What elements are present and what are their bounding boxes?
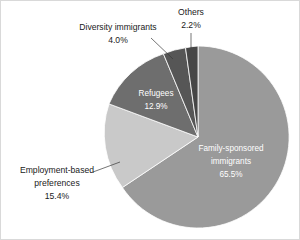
pie-label-family-sponsored-name-line1: Family-sponsored [198,144,264,153]
pie-label-family-sponsored-value: 65.5% [219,170,242,179]
pie-label-others-value: 2.2% [181,20,201,30]
pie-label-refugees-name: Refugees [138,89,173,98]
pie-label-family-sponsored-name-line2: immigrants [211,157,251,166]
pie-label-diversity-immigrants-name: Diversity immigrants [79,22,156,32]
pie-label-diversity-immigrants-value: 4.0% [108,35,128,45]
pie-label-employment-based-value: 15.4% [45,191,70,201]
pie-label-employment-based-name-line1: Employment-based [20,165,94,175]
pie-chart-svg: Others 2.2% Diversity immigrants 4.0% Re… [1,1,300,240]
pie-chart-figure: Others 2.2% Diversity immigrants 4.0% Re… [0,0,300,240]
pie-label-employment-based-name-line2: preferences [34,178,79,188]
pie-label-refugees-value: 12.9% [144,102,167,111]
pie-label-others-name: Others [178,7,204,17]
